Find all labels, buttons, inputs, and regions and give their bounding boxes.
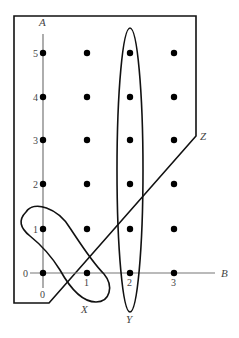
set-z-label: Z: [200, 130, 207, 142]
region-y-ellipse: [117, 28, 143, 312]
y-tick-4: 4: [33, 92, 38, 103]
set-y-label: Y: [126, 313, 134, 325]
diagram-canvas: A B 5 4 3 2 1 0 0 1 2 3 X Y Z: [0, 0, 239, 338]
lattice-diagram: A B 5 4 3 2 1 0 0 1 2 3 X Y Z: [0, 0, 239, 338]
y-tick-1: 1: [33, 224, 38, 235]
x-tick-3: 3: [171, 277, 176, 288]
y-tick-0: 0: [23, 268, 28, 279]
y-tick-2: 2: [33, 179, 38, 190]
x-tick-0: 0: [40, 289, 45, 300]
region-x-loop: [21, 206, 109, 302]
region-z-boundary: [14, 16, 196, 303]
set-x-label: X: [80, 303, 89, 315]
y-tick-5: 5: [33, 48, 38, 59]
x-tick-2: 2: [127, 277, 132, 288]
x-tick-1: 1: [84, 277, 89, 288]
axis-b-label: B: [221, 267, 228, 279]
axis-a-label: A: [38, 16, 46, 28]
y-tick-3: 3: [33, 135, 38, 146]
grid-points: [40, 50, 177, 276]
